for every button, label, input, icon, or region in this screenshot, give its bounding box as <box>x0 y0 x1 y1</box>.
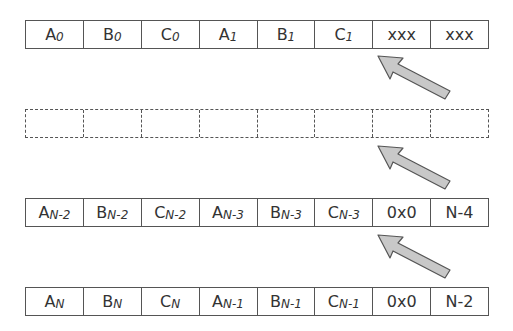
empty-cell <box>26 110 83 137</box>
arrow-up-left-icon <box>378 146 450 189</box>
cell-a-n-3: AN-3 <box>199 199 257 226</box>
cell-pointer: 0x0 <box>372 288 430 315</box>
memory-row-n-2: AN-2 BN-2 CN-2 AN-3 BN-3 CN-3 0x0 N-4 <box>25 198 489 227</box>
empty-cell <box>83 110 141 137</box>
arrow-up-left-icon <box>378 235 450 278</box>
cell-a0: A0 <box>26 21 83 48</box>
cell-a-n-2: AN-2 <box>26 199 83 226</box>
cell-a-n-1: AN-1 <box>199 288 257 315</box>
empty-cell <box>199 110 257 137</box>
arrows-layer <box>0 0 513 331</box>
empty-cell <box>314 110 372 137</box>
empty-cell <box>257 110 315 137</box>
cell-b1: B1 <box>257 21 315 48</box>
cell-b0: B0 <box>83 21 141 48</box>
cell-count: N-4 <box>430 199 488 226</box>
memory-row-ellipsis <box>25 109 489 138</box>
cell-b-n-3: BN-3 <box>257 199 315 226</box>
arrow-up-left-icon <box>378 56 450 99</box>
cell-c-n-1: CN-1 <box>314 288 372 315</box>
cell-a-n: AN <box>26 288 83 315</box>
cell-c-n: CN <box>141 288 199 315</box>
cell-c1: C1 <box>314 21 372 48</box>
cell-b-n: BN <box>83 288 141 315</box>
cell-pointer: 0x0 <box>372 199 430 226</box>
cell-c-n-2: CN-2 <box>141 199 199 226</box>
cell-count: N-2 <box>430 288 488 315</box>
cell-b-n-1: BN-1 <box>257 288 315 315</box>
empty-cell <box>430 110 488 137</box>
empty-cell <box>141 110 199 137</box>
cell-c-n-3: CN-3 <box>314 199 372 226</box>
cell-c0: C0 <box>141 21 199 48</box>
cell-unused-1: xxx <box>372 21 430 48</box>
cell-unused-2: xxx <box>430 21 488 48</box>
empty-cell <box>372 110 430 137</box>
cell-a1: A1 <box>199 21 257 48</box>
memory-row-top: A0 B0 C0 A1 B1 C1 xxx xxx <box>25 20 489 49</box>
memory-row-n: AN BN CN AN-1 BN-1 CN-1 0x0 N-2 <box>25 287 489 316</box>
cell-b-n-2: BN-2 <box>83 199 141 226</box>
